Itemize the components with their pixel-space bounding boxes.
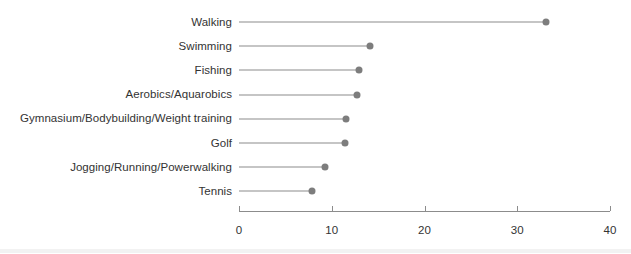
lollipop-row: Jogging/Running/Powerwalking (0, 159, 631, 175)
data-point-marker[interactable] (341, 140, 348, 147)
data-point-marker[interactable] (322, 164, 329, 171)
x-axis-tick-label: 0 (236, 224, 242, 237)
x-axis-tick-label: 20 (418, 224, 431, 237)
category-label: Aerobics/Aquarobics (0, 88, 232, 101)
category-label: Walking (0, 16, 232, 29)
x-axis-tick-label: 10 (325, 224, 338, 237)
x-axis-tick (610, 206, 611, 211)
category-label: Gymnasium/Bodybuilding/Weight training (0, 112, 232, 125)
lollipop-stem (239, 94, 357, 95)
lollipop-stem (239, 118, 346, 119)
lollipop-stem (239, 191, 312, 192)
x-axis-tick-label: 40 (604, 224, 617, 237)
data-point-marker[interactable] (353, 91, 360, 98)
data-point-marker[interactable] (342, 115, 349, 122)
lollipop-stem (239, 143, 345, 144)
lollipop-row: Swimming (0, 38, 631, 54)
category-label: Swimming (0, 40, 232, 53)
lollipop-chart: WalkingSwimmingFishingAerobics/Aquarobic… (0, 0, 631, 254)
x-axis-tick (239, 206, 240, 211)
lollipop-row: Aerobics/Aquarobics (0, 87, 631, 103)
x-axis-tick-label: 30 (511, 224, 524, 237)
lollipop-row: Walking (0, 14, 631, 30)
category-label: Fishing (0, 64, 232, 77)
category-label: Golf (0, 137, 232, 150)
x-axis-line (239, 211, 610, 212)
lollipop-stem (239, 46, 370, 47)
data-point-marker[interactable] (366, 43, 373, 50)
x-axis-tick (517, 206, 518, 211)
lollipop-stem (239, 167, 325, 168)
lollipop-row: Gymnasium/Bodybuilding/Weight training (0, 111, 631, 127)
lollipop-stem (239, 70, 359, 71)
category-label: Jogging/Running/Powerwalking (0, 161, 232, 174)
data-point-marker[interactable] (309, 188, 316, 195)
category-label: Tennis (0, 185, 232, 198)
footer-band (0, 249, 631, 253)
x-axis-tick (332, 206, 333, 211)
data-point-marker[interactable] (355, 67, 362, 74)
x-axis-tick (425, 206, 426, 211)
lollipop-row: Golf (0, 135, 631, 151)
lollipop-stem (239, 22, 546, 23)
lollipop-row: Tennis (0, 183, 631, 199)
lollipop-row: Fishing (0, 62, 631, 78)
data-point-marker[interactable] (543, 19, 550, 26)
